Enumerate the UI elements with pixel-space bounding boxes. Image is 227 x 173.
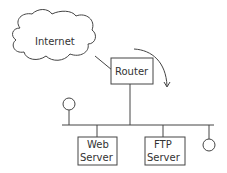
ftp-server-label-2: Server <box>147 152 181 163</box>
left-terminator-icon <box>63 98 75 125</box>
internet-label: Internet <box>35 36 75 47</box>
ftp-server-label-1: FTP <box>154 139 172 150</box>
web-server-node: Web Server <box>78 125 117 165</box>
router-node: Router <box>111 58 153 84</box>
internet-cloud: Internet <box>13 10 96 61</box>
network-diagram: Internet Router Web Server FTP Server <box>0 0 227 173</box>
router-label: Router <box>115 66 149 77</box>
ftp-server-node: FTP Server <box>145 125 185 165</box>
web-server-label-2: Server <box>80 152 114 163</box>
right-terminator-icon <box>203 125 215 151</box>
internet-router-link <box>95 56 112 70</box>
web-server-label-1: Web <box>87 139 109 150</box>
